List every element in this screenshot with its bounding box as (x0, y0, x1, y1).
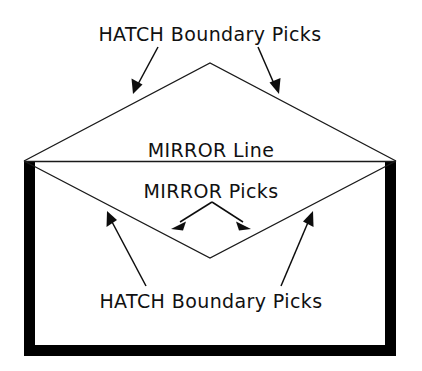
label-mirror-line: MIRROR Line (148, 139, 275, 161)
top-right-leader (258, 47, 281, 94)
top-right-leader-line (258, 47, 275, 86)
top-right-arrow-head-icon (270, 78, 281, 94)
diagram-canvas: HATCH Boundary Picks MIRROR Line MIRROR … (0, 0, 422, 371)
top-left-arrow-head-icon (132, 79, 143, 95)
top-left-leader-line (137, 47, 158, 86)
envelope-diagram: HATCH Boundary Picks MIRROR Line MIRROR … (0, 0, 422, 371)
label-top-hatch-boundary-picks: HATCH Boundary Picks (98, 23, 321, 45)
label-bottom-hatch-boundary-picks: HATCH Boundary Picks (99, 290, 322, 312)
label-mirror-picks: MIRROR Picks (143, 180, 278, 202)
top-left-leader (132, 47, 159, 94)
